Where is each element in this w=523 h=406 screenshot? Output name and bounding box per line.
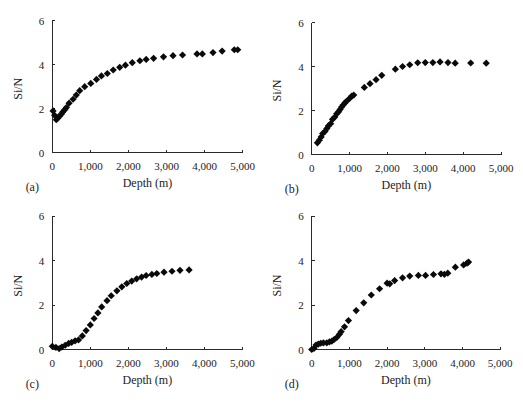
x-tick-label: 5,000: [230, 160, 255, 172]
panel-label: (d): [285, 377, 299, 391]
figure-background: [0, 0, 523, 406]
y-tick-label: 2: [39, 103, 45, 115]
x-tick-label: 0: [309, 162, 315, 174]
x-axis-title: Depth (m): [381, 373, 431, 387]
y-tick-label: 2: [298, 299, 304, 311]
y-tick-label: 6: [298, 17, 304, 29]
y-tick-label: 2: [39, 299, 45, 311]
x-tick-label: 1,000: [337, 357, 362, 369]
x-tick-label: 0: [309, 357, 315, 369]
x-tick-label: 1,000: [78, 160, 103, 172]
x-tick-label: 3,000: [412, 357, 437, 369]
x-tick-label: 1,000: [78, 357, 103, 369]
x-axis-title: Depth (m): [122, 373, 172, 387]
y-axis-title: Si/N: [11, 274, 25, 296]
x-axis-title: Depth (m): [382, 178, 432, 192]
figure: 01,0002,0003,0004,0005,0000246Depth (m)S…: [0, 0, 523, 406]
y-tick-label: 0: [39, 344, 45, 356]
x-tick-label: 3,000: [154, 357, 179, 369]
x-tick-label: 5,000: [489, 162, 514, 174]
x-tick-label: 3,000: [154, 160, 179, 172]
x-tick-label: 2,000: [375, 357, 400, 369]
x-tick-label: 4,000: [451, 162, 476, 174]
x-tick-label: 3,000: [413, 162, 438, 174]
y-tick-label: 0: [298, 344, 304, 356]
y-tick-label: 6: [39, 15, 45, 27]
x-tick-label: 2,000: [375, 162, 400, 174]
x-tick-label: 2,000: [116, 357, 141, 369]
panel-label: (c): [26, 377, 39, 391]
y-tick-label: 2: [298, 105, 304, 117]
x-tick-label: 4,000: [450, 357, 475, 369]
y-tick-label: 4: [39, 59, 45, 71]
x-tick-label: 4,000: [192, 357, 217, 369]
y-tick-label: 0: [39, 147, 45, 159]
y-axis-title: Si/N: [11, 77, 25, 99]
x-tick-label: 0: [50, 160, 56, 172]
x-tick-label: 5,000: [488, 357, 513, 369]
y-tick-label: 6: [298, 210, 304, 222]
panel-label: (b): [285, 182, 299, 196]
y-axis-title: Si/N: [270, 79, 284, 101]
y-tick-label: 4: [298, 61, 304, 73]
y-axis-title: Si/N: [270, 274, 284, 296]
y-tick-label: 4: [39, 255, 45, 267]
x-tick-label: 4,000: [192, 160, 217, 172]
y-tick-label: 4: [298, 255, 304, 267]
x-tick-label: 0: [50, 357, 56, 369]
panel-label: (a): [26, 180, 39, 194]
x-tick-label: 1,000: [337, 162, 362, 174]
x-tick-label: 5,000: [230, 357, 255, 369]
x-tick-label: 2,000: [116, 160, 141, 172]
y-tick-label: 6: [39, 210, 45, 222]
y-tick-label: 0: [298, 149, 304, 161]
x-axis-title: Depth (m): [123, 176, 173, 190]
